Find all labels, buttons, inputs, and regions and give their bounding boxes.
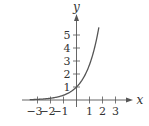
axes [22, 14, 133, 107]
x-tick-label: 1 [86, 105, 93, 118]
y-tick-label: 1 [64, 81, 71, 94]
x-tick-label: 3 [112, 105, 119, 118]
y-axis-label: y [72, 0, 80, 14]
y-tick-label: 3 [64, 55, 71, 68]
x-axis-arrow-icon [126, 98, 133, 103]
y-tick-label: 4 [64, 42, 71, 55]
x-tick-label: 2 [99, 105, 106, 118]
y-axis-arrow-icon [74, 14, 79, 21]
exponential-chart: −3−2−112312345xy [0, 0, 149, 126]
x-tick-label: −1 [52, 105, 68, 118]
x-axis-label: x [137, 93, 144, 107]
y-tick-label: 2 [64, 68, 71, 81]
y-tick-label: 5 [64, 29, 71, 42]
